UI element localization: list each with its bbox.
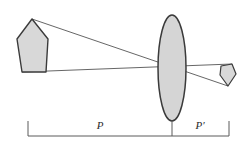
converging-lens [158, 15, 186, 121]
object-distance-label: P [96, 119, 104, 131]
lens-ray-diagram: P P′ [0, 0, 241, 144]
image-distance-label: P′ [194, 119, 205, 131]
